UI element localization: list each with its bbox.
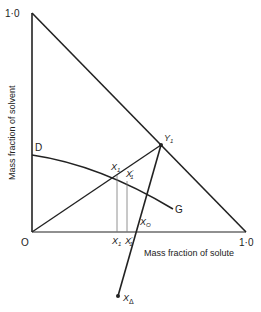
label-G: G — [175, 204, 183, 215]
y-max-label: 1·0 — [5, 8, 20, 19]
label-X1-prime: X'1 — [125, 169, 134, 180]
ternary-diagram: 1·0 1·0 O Mass fraction of solvent Mass … — [0, 0, 261, 312]
point-Y1 — [159, 143, 163, 147]
label-D: D — [35, 142, 42, 153]
label-Y1: Y1 — [164, 133, 173, 144]
label-X1: X1 — [110, 162, 120, 173]
label-X1-prime-axis: X'1 — [124, 236, 133, 247]
point-Xdelta — [116, 294, 120, 298]
label-X1-axis: X1 — [111, 236, 121, 247]
solubility-curve-DG — [32, 155, 173, 209]
x-max-label: 1·0 — [239, 237, 254, 248]
origin-label: O — [21, 237, 29, 248]
y-axis-label: Mass fraction of solvent — [7, 85, 17, 180]
label-X0: XO — [139, 217, 151, 228]
label-Xdelta: XΔ — [122, 293, 134, 305]
x-axis-label: Mass fraction of solute — [144, 248, 234, 258]
hypotenuse — [32, 13, 246, 232]
